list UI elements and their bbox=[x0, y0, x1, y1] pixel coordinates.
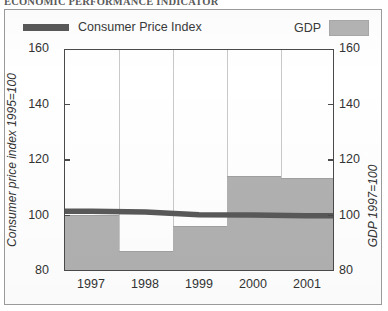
line-series-cpi bbox=[65, 50, 333, 270]
chart-figure: Consumer Price Index GDP 16014012010080 … bbox=[4, 9, 382, 305]
y-axis-right-tick-label: 80 bbox=[339, 263, 353, 277]
plot-wrapper: 16014012010080 16014012010080 1997199819… bbox=[5, 10, 383, 306]
x-axis-tick-label: 1999 bbox=[172, 277, 226, 291]
plot-area bbox=[64, 49, 334, 271]
y-axis-right-tick-label: 160 bbox=[339, 41, 360, 55]
figure-page: ECONOMIC PERFORMANCE INDICATOR Consumer … bbox=[0, 0, 388, 311]
y-axis-right-tick-label: 100 bbox=[339, 208, 360, 222]
y-axis-right-title: GDP 1997=100 bbox=[366, 165, 380, 248]
y-axis-left-tick-label: 120 bbox=[28, 152, 49, 166]
page-title: ECONOMIC PERFORMANCE INDICATOR bbox=[4, 0, 218, 6]
x-axis-tick-label: 2001 bbox=[280, 277, 334, 291]
y-axis-left-tick-label: 100 bbox=[28, 208, 49, 222]
axis-tickmark bbox=[328, 215, 334, 217]
axis-tickmark bbox=[328, 104, 334, 106]
y-axis-left-tick-label: 140 bbox=[28, 97, 49, 111]
y-axis-right-tick-label: 120 bbox=[339, 152, 360, 166]
y-axis-left-title: Consumer price index 1995=100 bbox=[5, 73, 19, 247]
y-axis-right-tick-label: 140 bbox=[339, 97, 360, 111]
y-axis-left-tick-label: 160 bbox=[28, 41, 49, 55]
x-axis-tick-label: 1997 bbox=[64, 277, 118, 291]
axis-tickmark bbox=[64, 104, 70, 106]
x-axis-tick-label: 2000 bbox=[226, 277, 280, 291]
axis-tickmark bbox=[64, 159, 70, 161]
axis-tickmark bbox=[328, 159, 334, 161]
x-axis-tick-label: 1998 bbox=[118, 277, 172, 291]
axis-tickmark bbox=[64, 215, 70, 217]
y-axis-left-tick-label: 80 bbox=[35, 263, 49, 277]
